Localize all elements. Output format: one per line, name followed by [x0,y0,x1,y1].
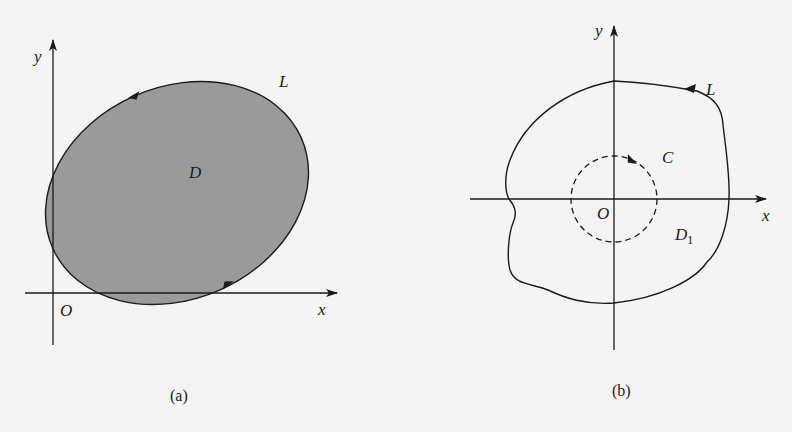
figure-a: y L D O x (a) [10,40,345,405]
caption-a: (a) [170,387,188,405]
y-axis-label-b: y [593,21,603,40]
x-axis-label-b: x [761,206,770,225]
curve-l-b [506,81,729,303]
region-d-ellipse [10,41,345,345]
origin-label-a: O [60,301,72,320]
region-d1-label: D1 [674,225,693,247]
region-d1-main: D [674,225,688,244]
circle-c-label: C [662,148,674,167]
curve-l-label-b: L [705,80,715,99]
x-axis-label-a: x [317,300,326,319]
curve-l-label-a: L [278,72,288,91]
caption-b: (b) [612,382,631,400]
diagram-canvas: y L D O x (a) y L C O D1 x (b) [0,0,792,432]
origin-label-b: O [597,204,609,223]
circle-c-arrow-icon [625,154,639,166]
region-d-label: D [188,163,202,182]
region-d1-subscript: 1 [687,233,693,247]
y-axis-label-a: y [32,47,42,66]
figure-b: y L C O D1 x (b) [470,21,770,400]
curve-l-arrow-icon [684,84,696,93]
